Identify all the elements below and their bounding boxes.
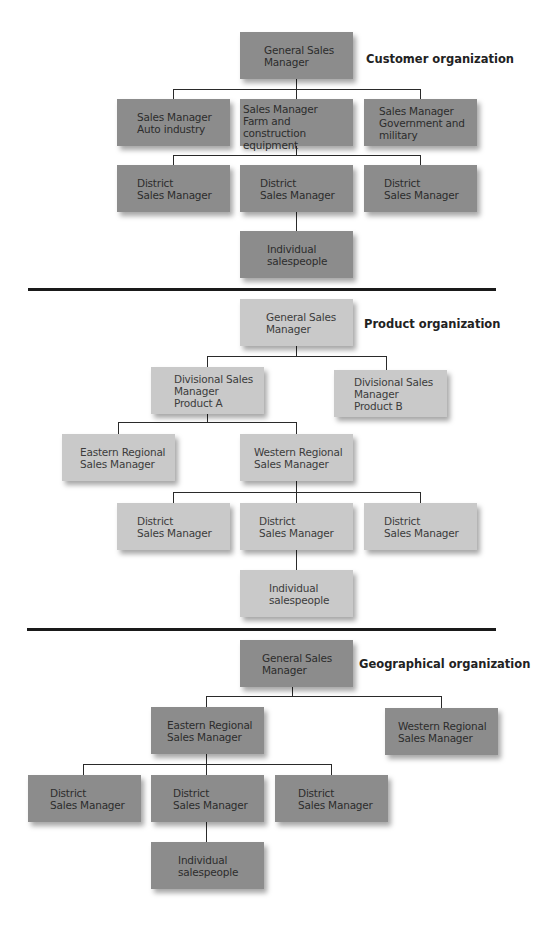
connector bbox=[206, 764, 207, 775]
individual-salespeople-box: Individual salespeople bbox=[151, 842, 264, 889]
district-sales-manager-box: District Sales Manager bbox=[151, 775, 264, 822]
connector bbox=[386, 356, 387, 370]
connector bbox=[206, 696, 207, 707]
box-label: Western Regional Sales Manager bbox=[254, 446, 343, 470]
connector bbox=[420, 155, 421, 165]
box-label: General Sales Manager bbox=[262, 652, 332, 676]
divisional-sales-manager-b-box: Divisional Sales Manager Product B bbox=[334, 370, 447, 417]
connector bbox=[296, 422, 297, 434]
box-label: District Sales Manager bbox=[173, 787, 248, 811]
western-regional-sales-manager-box: Western Regional Sales Manager bbox=[240, 434, 353, 481]
connector bbox=[296, 89, 297, 99]
district-sales-manager-box: District Sales Manager bbox=[240, 503, 353, 550]
sales-manager-government-box: Sales Manager Government and military bbox=[364, 99, 477, 146]
connector bbox=[173, 492, 174, 503]
box-label: District Sales Manager bbox=[137, 177, 212, 201]
box-label: Divisional Sales Manager Product A bbox=[174, 373, 253, 409]
box-label: Sales Manager Government and military bbox=[379, 105, 465, 141]
box-label: District Sales Manager bbox=[384, 515, 459, 539]
connector bbox=[207, 356, 208, 367]
box-label: Sales Manager Auto industry bbox=[137, 111, 212, 135]
connector bbox=[173, 155, 174, 165]
district-sales-manager-box: District Sales Manager bbox=[364, 503, 477, 550]
district-sales-manager-box: District Sales Manager bbox=[240, 165, 353, 212]
district-sales-manager-box: District Sales Manager bbox=[275, 775, 388, 822]
box-label: Eastern Regional Sales Manager bbox=[80, 446, 165, 470]
connector bbox=[420, 89, 421, 99]
connector bbox=[441, 696, 442, 708]
connector bbox=[206, 696, 442, 697]
connector bbox=[118, 422, 297, 423]
box-label: Western Regional Sales Manager bbox=[398, 720, 487, 744]
box-label: District Sales Manager bbox=[50, 787, 125, 811]
section-divider bbox=[27, 628, 496, 631]
section-title: Product organization bbox=[364, 317, 500, 331]
box-label: District Sales Manager bbox=[137, 515, 212, 539]
connector bbox=[207, 356, 387, 357]
box-label: Individual salespeople bbox=[269, 582, 329, 606]
box-label: General Sales Manager bbox=[266, 311, 336, 335]
connector bbox=[83, 764, 332, 765]
box-label: District Sales Manager bbox=[259, 515, 334, 539]
general-sales-manager-box: General Sales Manager bbox=[240, 640, 353, 687]
section-title: Geographical organization bbox=[359, 657, 530, 671]
connector bbox=[296, 212, 297, 231]
box-label: Eastern Regional Sales Manager bbox=[167, 719, 252, 743]
sales-manager-auto-box: Sales Manager Auto industry bbox=[117, 99, 230, 146]
connector bbox=[296, 550, 297, 570]
section-divider bbox=[28, 288, 496, 291]
connector bbox=[420, 492, 421, 503]
general-sales-manager-box: General Sales Manager bbox=[240, 299, 353, 346]
connector bbox=[118, 422, 119, 434]
individual-salespeople-box: Individual salespeople bbox=[240, 570, 353, 617]
connector bbox=[296, 492, 297, 503]
connector bbox=[173, 492, 421, 493]
connector bbox=[331, 764, 332, 775]
eastern-regional-sales-manager-box: Eastern Regional Sales Manager bbox=[62, 434, 175, 481]
box-label: District Sales Manager bbox=[298, 787, 373, 811]
district-sales-manager-box: District Sales Manager bbox=[117, 165, 230, 212]
box-label: Individual salespeople bbox=[178, 854, 238, 878]
district-sales-manager-box: District Sales Manager bbox=[364, 165, 477, 212]
individual-salespeople-box: Individual salespeople bbox=[240, 231, 353, 278]
connector bbox=[206, 822, 207, 842]
connector bbox=[173, 155, 421, 156]
eastern-regional-sales-manager-box: Eastern Regional Sales Manager bbox=[151, 707, 264, 754]
box-label: District Sales Manager bbox=[384, 177, 459, 201]
connector bbox=[173, 89, 421, 90]
divisional-sales-manager-a-box: Divisional Sales Manager Product A bbox=[151, 367, 264, 414]
connector bbox=[173, 89, 174, 99]
sales-manager-farm-box: Sales Manager Farm and construction equi… bbox=[240, 99, 353, 146]
box-label: General Sales Manager bbox=[264, 44, 334, 68]
general-sales-manager-box: General Sales Manager bbox=[240, 32, 353, 79]
box-label: Individual salespeople bbox=[267, 243, 327, 267]
box-label: Divisional Sales Manager Product B bbox=[354, 376, 433, 412]
section-title: Customer organization bbox=[366, 52, 514, 66]
district-sales-manager-box: District Sales Manager bbox=[28, 775, 141, 822]
box-label: District Sales Manager bbox=[260, 177, 335, 201]
district-sales-manager-box: District Sales Manager bbox=[117, 503, 230, 550]
western-regional-sales-manager-box: Western Regional Sales Manager bbox=[385, 708, 498, 755]
box-label: Sales Manager Farm and construction equi… bbox=[243, 103, 353, 151]
connector bbox=[83, 764, 84, 775]
